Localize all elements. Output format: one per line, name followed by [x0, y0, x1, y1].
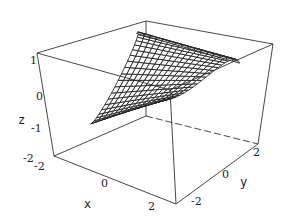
x-tick-label: 2	[148, 200, 155, 213]
z-axis-line	[37, 53, 54, 156]
y-tick-label: 0	[222, 168, 229, 181]
mesh-surface	[91, 32, 240, 124]
box-edge	[170, 90, 176, 204]
box-edge-hidden	[146, 116, 258, 144]
y-tick-label: -2	[191, 195, 202, 208]
x-axis-line	[54, 156, 176, 204]
y-axis-line	[176, 144, 258, 204]
z-tick-label: 1	[30, 54, 37, 67]
box-edge	[37, 21, 146, 53]
x-tick-label: 0	[101, 177, 108, 190]
y-axis-title: y	[240, 175, 247, 189]
z-tick-label: -1	[31, 122, 42, 135]
z-tick-label: 0	[36, 90, 43, 103]
box-edge-hidden	[54, 116, 146, 156]
x-axis-title: x	[84, 197, 91, 211]
surface-plot-3d: 10-1-2-202-202zxy	[0, 0, 286, 223]
y-tick-label: 2	[253, 146, 260, 159]
box-edge	[258, 44, 273, 144]
z-axis-title: z	[18, 113, 25, 127]
z-tick-label: -2	[23, 152, 34, 165]
x-tick-label: -2	[34, 160, 45, 173]
